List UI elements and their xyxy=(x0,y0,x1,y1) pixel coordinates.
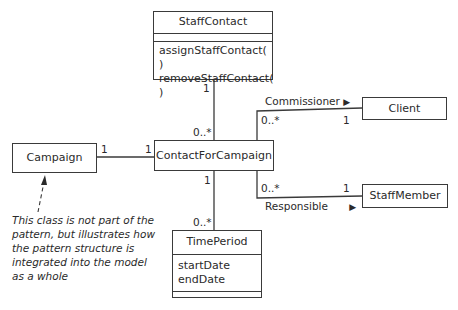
attribute: endDate xyxy=(178,273,261,287)
multiplicity-label: 0..* xyxy=(261,182,280,194)
multiplicity-label: 1 xyxy=(343,114,350,126)
class-name: Campaign xyxy=(13,144,96,172)
multiplicity-label: 0..* xyxy=(193,216,212,228)
operation: assignStaffContact( ) xyxy=(159,44,272,72)
class-staff-contact[interactable]: StaffContact assignStaffContact( ) remov… xyxy=(153,11,273,80)
class-time-period[interactable]: TimePeriod startDate endDate xyxy=(172,230,262,298)
multiplicity-label: 0..* xyxy=(193,126,212,138)
class-staff-member[interactable]: StaffMember xyxy=(362,184,448,208)
operations-section xyxy=(173,291,261,297)
annotation-note: This class is not part of the pattern, b… xyxy=(12,213,162,283)
direction-arrow-icon: ▶ xyxy=(343,97,350,107)
association-name-responsible: Responsible ▶ xyxy=(265,200,356,213)
multiplicity-label: 1 xyxy=(203,82,210,94)
class-name: StaffContact xyxy=(154,12,272,33)
attributes-section: startDate endDate xyxy=(173,254,261,291)
note-dashed-line xyxy=(38,182,44,212)
multiplicity-label: 1 xyxy=(204,174,211,186)
class-name: TimePeriod xyxy=(173,231,261,254)
class-name: ContactForCampaign xyxy=(155,141,273,170)
attribute: startDate xyxy=(178,259,261,273)
class-contact-for-campaign[interactable]: ContactForCampaign xyxy=(154,140,274,171)
multiplicity-label: 1 xyxy=(101,143,108,155)
class-name: StaffMember xyxy=(363,185,447,207)
multiplicity-label: 1 xyxy=(343,182,350,194)
direction-arrow-icon: ▶ xyxy=(349,202,356,212)
attributes-section xyxy=(154,33,272,41)
multiplicity-label: 0..* xyxy=(261,114,280,126)
class-name: Client xyxy=(363,98,446,119)
association-name-commissioner: Commissioner ▶ xyxy=(265,95,350,108)
note-arrowhead-icon xyxy=(41,175,47,185)
operation: removeStaffContact( ) xyxy=(159,72,272,100)
class-campaign[interactable]: Campaign xyxy=(12,143,97,173)
operations-section: assignStaffContact( ) removeStaffContact… xyxy=(154,41,272,79)
class-client[interactable]: Client xyxy=(362,97,447,120)
multiplicity-label: 1 xyxy=(145,143,152,155)
